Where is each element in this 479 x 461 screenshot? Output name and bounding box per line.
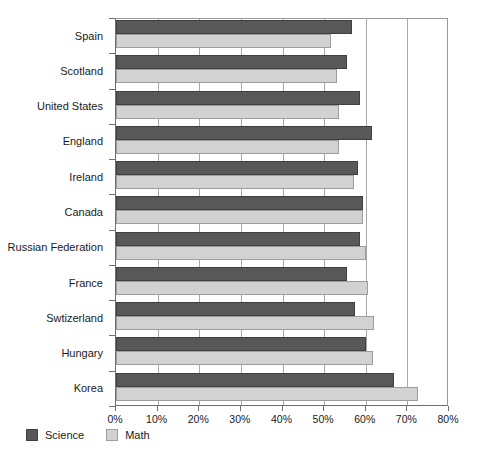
x-axis-tick-label: 20% [188, 412, 209, 426]
category-label: Canada [64, 206, 103, 218]
category-label: Hungary [61, 347, 103, 359]
bar-science [116, 232, 360, 246]
x-axis-tick-label: 80% [437, 412, 458, 426]
legend-label: Math [125, 429, 149, 441]
legend-item-math[interactable]: Math [106, 429, 149, 441]
x-axis-tick [115, 406, 116, 411]
x-axis-tick [198, 406, 199, 411]
x-axis-tick-label: 60% [354, 412, 375, 426]
category-label: Swtizerland [46, 312, 103, 324]
bar-group [116, 336, 447, 371]
category-label: Ireland [69, 171, 103, 183]
plot-area [115, 18, 448, 406]
bar-group [116, 195, 447, 230]
bar-science [116, 302, 355, 316]
x-axis-tick-label: 10% [146, 412, 167, 426]
x-axis-tick [323, 406, 324, 411]
bar-group [116, 54, 447, 89]
bar-group [116, 90, 447, 125]
x-axis-tick [448, 406, 449, 411]
bar-science [116, 55, 347, 69]
x-axis-tick [406, 406, 407, 411]
category-label: France [69, 277, 103, 289]
bar-science [116, 267, 347, 281]
x-axis-tick-label: 30% [229, 412, 250, 426]
bar-math [116, 316, 374, 330]
x-axis-tick [240, 406, 241, 411]
category-label: Russian Federation [8, 241, 103, 253]
bar-science [116, 373, 394, 387]
category-label: England [63, 135, 103, 147]
x-axis-tick-label: 50% [313, 412, 334, 426]
science-swatch-icon [26, 429, 38, 441]
category-axis-labels: SpainScotlandUnited StatesEnglandIreland… [0, 18, 110, 406]
category-label: Korea [74, 382, 103, 394]
bar-math [116, 105, 339, 119]
bar-science [116, 337, 366, 351]
bar-math [116, 69, 337, 83]
category-label: United States [37, 100, 103, 112]
category-label: Spain [75, 30, 103, 42]
bar-group [116, 266, 447, 301]
bar-group [116, 19, 447, 54]
x-axis-labels: 0%10%20%30%40%50%60%70%80% [115, 412, 448, 428]
bar-group [116, 301, 447, 336]
bar-group [116, 372, 447, 407]
x-axis-tick [282, 406, 283, 411]
bar-math [116, 246, 366, 260]
bar-math [116, 281, 368, 295]
category-label: Scotland [60, 65, 103, 77]
bar-science [116, 20, 352, 34]
bar-math [116, 175, 354, 189]
bar-math [116, 351, 373, 365]
x-axis-tick [157, 406, 158, 411]
bar-chart: SpainScotlandUnited StatesEnglandIreland… [0, 0, 479, 461]
bar-group [116, 160, 447, 195]
legend-item-science[interactable]: Science [26, 429, 84, 441]
bar-group [116, 231, 447, 266]
bar-science [116, 196, 363, 210]
math-swatch-icon [106, 429, 118, 441]
bar-science [116, 161, 358, 175]
bar-science [116, 126, 372, 140]
x-axis-tick [365, 406, 366, 411]
bar-group [116, 125, 447, 160]
bar-math [116, 34, 331, 48]
legend-label: Science [45, 429, 84, 441]
chart-legend: ScienceMath [26, 429, 150, 441]
x-axis-tick-label: 70% [396, 412, 417, 426]
bar-science [116, 91, 360, 105]
bar-math [116, 210, 363, 224]
x-axis-tick-label: 0% [107, 412, 122, 426]
bar-math [116, 140, 339, 154]
bar-math [116, 387, 418, 401]
x-axis-tick-label: 40% [271, 412, 292, 426]
